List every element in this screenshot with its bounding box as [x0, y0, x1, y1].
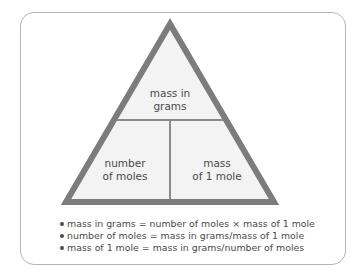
section-left-line1: number: [80, 157, 170, 170]
section-number-of-moles: number of moles: [80, 157, 170, 183]
formula-text: number of moles = mass in grams/mass of …: [67, 230, 304, 241]
section-mass-in-grams: mass in grams: [130, 87, 210, 113]
formula-list: mass in grams = number of moles × mass o…: [60, 218, 315, 254]
section-right-line1: mass: [172, 157, 262, 170]
bullet-icon: [60, 246, 64, 250]
formula-item: mass of 1 mole = mass in grams/number of…: [60, 242, 315, 254]
formula-item: mass in grams = number of moles × mass o…: [60, 218, 315, 230]
formula-text: mass of 1 mole = mass in grams/number of…: [67, 242, 304, 253]
section-top-line2: grams: [130, 100, 210, 113]
section-right-line2: of 1 mole: [172, 170, 262, 183]
section-left-line2: of moles: [80, 170, 170, 183]
section-top-line1: mass in: [130, 87, 210, 100]
bullet-icon: [60, 234, 64, 238]
section-mass-of-1-mole: mass of 1 mole: [172, 157, 262, 183]
bullet-icon: [60, 222, 64, 226]
formula-text: mass in grams = number of moles × mass o…: [67, 218, 315, 229]
formula-item: number of moles = mass in grams/mass of …: [60, 230, 315, 242]
